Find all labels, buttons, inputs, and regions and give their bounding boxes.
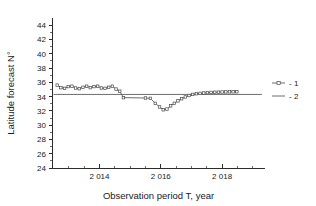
series-1-marker	[191, 93, 194, 96]
series-1-marker	[180, 97, 183, 100]
chart-figure: 24262830323436384042442 0142 0162 018 Ob…	[0, 0, 316, 206]
y-axis-tick-label: 32	[37, 107, 46, 116]
legend-entry-1[interactable]: - 1	[272, 79, 299, 88]
series-1-marker	[56, 84, 59, 87]
series-1-marker	[111, 85, 114, 88]
series-1-marker	[158, 106, 161, 109]
y-axis-tick-label: 28	[37, 135, 46, 144]
y-axis-tick-label: 44	[37, 21, 46, 30]
series-1-marker	[184, 96, 187, 99]
x-axis-tick-label: 2 016	[151, 172, 172, 181]
series-1-marker	[225, 91, 228, 94]
y-axis-tick-label: 42	[37, 35, 46, 44]
series-1-marker	[206, 91, 209, 94]
y-axis-tick-label: 36	[37, 78, 46, 87]
series-1-marker	[60, 86, 63, 89]
series-1-marker	[78, 87, 81, 90]
series-1-marker	[236, 90, 239, 93]
series-1-marker	[177, 100, 180, 103]
series-1-marker	[166, 108, 169, 111]
y-axis-tick-label: 24	[37, 164, 46, 173]
legend-label: - 2	[289, 92, 299, 101]
y-axis-title: Latitude forecast N°	[5, 51, 16, 135]
series-1-marker	[210, 91, 213, 94]
series-1-marker	[89, 86, 92, 89]
chart-legend[interactable]: - 1- 2	[272, 79, 299, 101]
series-1-marker	[67, 85, 70, 88]
series-1-marker	[202, 92, 205, 95]
series-1-marker	[74, 87, 77, 90]
x-axis-title: Observation period T, year	[103, 190, 214, 201]
series-1-marker	[195, 92, 198, 95]
line-chart: 24262830323436384042442 0142 0162 018 Ob…	[0, 0, 316, 206]
series-1-marker	[199, 92, 202, 95]
series-1-marker	[107, 86, 110, 89]
series-1-marker	[228, 91, 231, 94]
series-1-marker	[221, 91, 224, 94]
legend-label: - 1	[289, 79, 299, 88]
series-1-marker	[115, 88, 118, 91]
legend-marker-square	[277, 81, 280, 84]
series-1-marker	[144, 97, 147, 100]
series-1-marker	[85, 85, 88, 88]
y-axis-tick-label: 30	[37, 121, 46, 130]
series-1-marker	[96, 85, 99, 88]
series-1-marker	[162, 109, 165, 112]
series-1-marker	[118, 90, 121, 93]
series-1-marker	[149, 97, 152, 100]
series-1-marker	[63, 87, 66, 90]
series-1-marker	[232, 91, 235, 94]
series-1-marker	[71, 85, 74, 88]
series-1-marker	[82, 86, 85, 89]
legend-entry-2[interactable]: - 2	[272, 92, 299, 101]
series-1-marker	[122, 96, 125, 99]
series-1-marker	[173, 102, 176, 105]
series-1-marker	[104, 87, 107, 90]
x-axis-tick-label: 2 014	[89, 172, 110, 181]
y-axis-tick-label: 34	[37, 93, 46, 102]
series-1-marker	[188, 94, 191, 97]
series-1-marker	[100, 87, 103, 90]
y-axis-tick-label: 38	[37, 64, 46, 73]
series-1-forecast-line	[56, 84, 238, 111]
axis-tick-labels: 24262830323436384042442 0142 0162 018	[37, 21, 233, 181]
series-1-marker	[169, 105, 172, 108]
series-1-marker	[213, 91, 216, 94]
y-axis-tick-label: 40	[37, 50, 46, 59]
series-1-marker	[154, 102, 157, 105]
series-1-marker	[93, 85, 96, 88]
y-axis-tick-label: 26	[37, 150, 46, 159]
series-1-marker	[217, 91, 220, 94]
x-axis-tick-label: 2 018	[212, 172, 233, 181]
